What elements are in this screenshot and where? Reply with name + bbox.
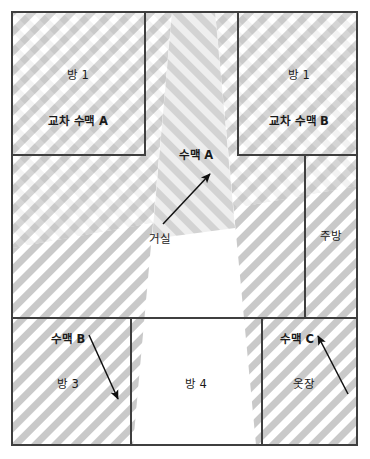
room-label-bottom-center-name: 방 4 bbox=[185, 379, 206, 391]
room-label-top-right-name: 방 1 bbox=[288, 70, 309, 82]
room-label-top-right-vein: 교차 수맥 B bbox=[269, 116, 328, 128]
floor-plan-diagram: 방 1 교차 수맥 A 방 1 교차 수맥 B 주방 거실 수맥 B 방 3 방… bbox=[0, 0, 370, 459]
room-label-top-left-vein: 교차 수맥 A bbox=[48, 116, 108, 128]
room-label-top-left-name: 방 1 bbox=[67, 70, 88, 82]
room-label-bottom-left-name: 방 3 bbox=[57, 379, 78, 391]
room-label-living: 거실 bbox=[149, 234, 171, 246]
room-label-bottom-left-vein: 수맥 B bbox=[51, 334, 85, 346]
room-label-bottom-right-name: 옷장 bbox=[293, 379, 315, 391]
room-label-bottom-right-vein: 수맥 C bbox=[280, 334, 314, 346]
vein-a-label: 수맥 A bbox=[179, 150, 213, 162]
room-label-kitchen: 주방 bbox=[320, 231, 342, 243]
